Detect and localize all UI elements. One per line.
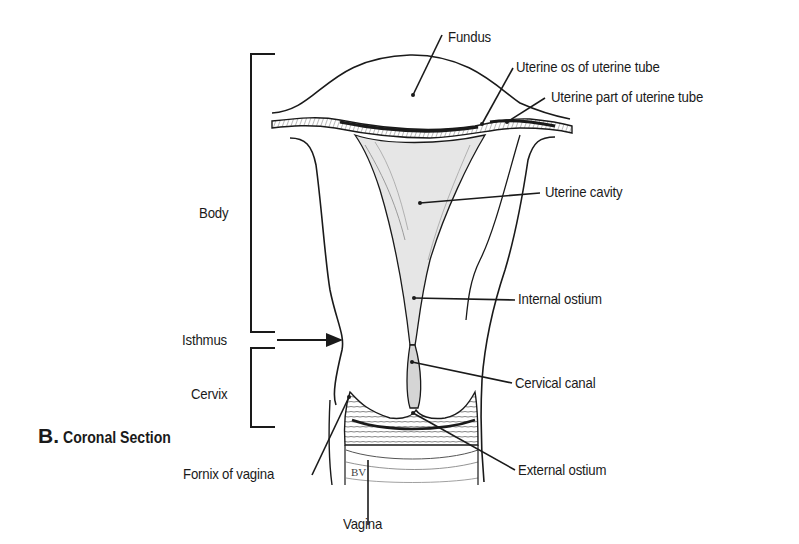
leader-lines [312,35,545,525]
uterine-part-label: Uterine part of uterine tube [551,88,703,106]
vagina-label: Vagina [343,515,382,533]
fundus-label: Fundus [448,28,491,46]
uterus-illustration: BV [0,0,799,544]
artist-mark: BV [351,466,366,478]
panel-letter: B. [38,424,59,447]
external-ostium-label: External ostium [518,461,606,479]
panel-title: B. Coronal Section [38,425,186,449]
right-uterine-wall [481,137,555,482]
uterine-cavity-label: Uterine cavity [545,183,623,201]
anatomy-diagram: BV Body Isthmus Cervix B. C [0,0,799,544]
panel-title-text: Coronal Section [63,427,171,449]
isthmus-arrow [277,333,343,347]
internal-ostium-label: Internal ostium [518,290,602,308]
cervical-canal-label: Cervical canal [515,374,595,392]
left-uterine-wall [290,138,343,405]
body-label: Body [199,204,228,222]
uterine-os-label: Uterine os of uterine tube [516,58,660,76]
isthmus-label: Isthmus [182,331,227,349]
cervix-bracket [251,348,275,427]
cervical-canal-shape [407,345,421,408]
uterine-cavity-shape [355,135,485,345]
fornix-label: Fornix of vagina [183,465,274,483]
cervix-label: Cervix [191,385,227,403]
body-bracket [251,54,275,332]
